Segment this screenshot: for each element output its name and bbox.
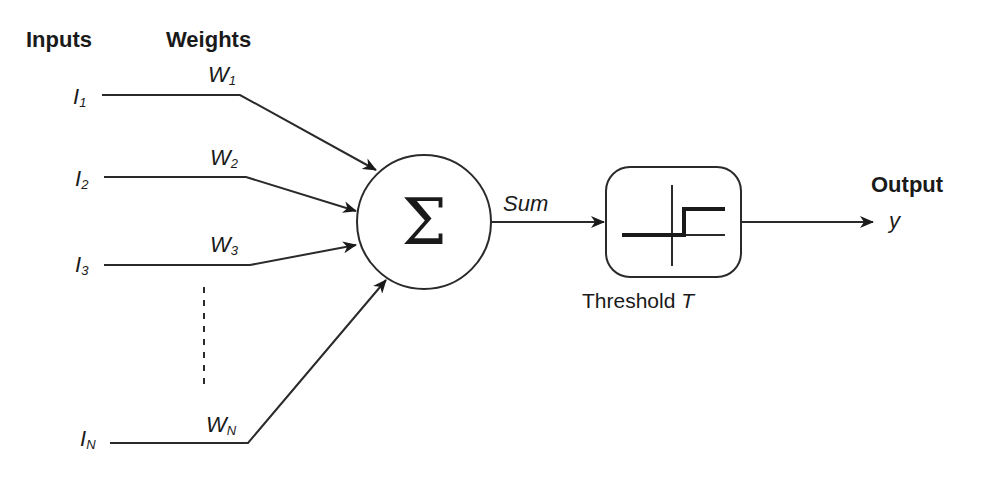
output-symbol: y <box>887 208 902 233</box>
weight-2-symbol: W <box>210 145 233 170</box>
svg-text:W2: W2 <box>210 145 239 171</box>
threshold-label-text: Threshold <box>582 289 681 312</box>
input-n-subscript: N <box>86 437 96 452</box>
svg-text:I2: I2 <box>75 166 89 192</box>
svg-text:W1: W1 <box>208 62 236 88</box>
summation-node: Σ <box>357 155 491 289</box>
weight-n-subscript: N <box>227 423 237 438</box>
input-1-subscript: 1 <box>79 95 86 110</box>
weight-1-subscript: 1 <box>229 73 236 88</box>
input-1-connection <box>102 95 376 170</box>
weight-n-symbol: W <box>206 412 229 437</box>
input-2-connection <box>104 177 356 211</box>
input-2-subscript: 2 <box>80 177 89 192</box>
weights-header: Weights <box>166 27 251 52</box>
input-n-connection <box>110 280 386 443</box>
svg-text:W3: W3 <box>210 232 239 258</box>
weight-1-symbol: W <box>208 62 231 87</box>
weight-3-symbol: W <box>210 232 233 257</box>
sigma-symbol: Σ <box>401 185 446 259</box>
input-2: I2 W2 <box>75 145 356 211</box>
svg-text:I3: I3 <box>75 252 89 278</box>
weight-2-subscript: 2 <box>230 156 239 171</box>
svg-text:WN: WN <box>206 412 237 438</box>
inputs-header: Inputs <box>26 27 92 52</box>
weight-3-subscript: 3 <box>231 243 239 258</box>
svg-text:IN: IN <box>80 426 96 452</box>
input-3-subscript: 3 <box>81 263 89 278</box>
threshold-label: Threshold T <box>582 289 696 312</box>
input-3: I3 W3 <box>75 232 356 278</box>
sum-label: Sum <box>503 191 548 216</box>
perceptron-diagram: Inputs Weights I1 W1 I2 W2 I3 W3 IN WN Σ… <box>0 0 988 477</box>
threshold-node <box>606 167 741 277</box>
threshold-variable: T <box>681 289 696 312</box>
input-n: IN WN <box>80 280 386 452</box>
threshold-box <box>606 167 741 277</box>
output-header: Output <box>871 172 944 197</box>
svg-text:I1: I1 <box>73 84 86 110</box>
